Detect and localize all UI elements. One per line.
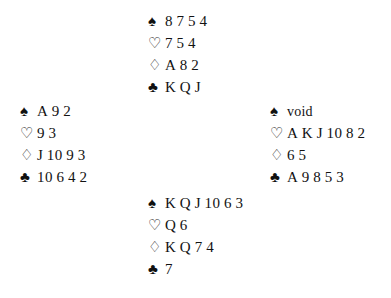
spades-suit-icon: ♠ — [148, 10, 165, 32]
card-rank: J — [317, 122, 323, 144]
suit-line-clubs: ♣KQJ — [148, 76, 208, 98]
card-rank: K — [302, 122, 313, 144]
card-rank: 9 — [52, 100, 60, 122]
suit-line-clubs: ♣7 — [148, 258, 244, 280]
card-rank: 8 — [165, 10, 173, 32]
card-ranks: 65 — [287, 144, 307, 166]
card-rank: 10 — [47, 144, 63, 166]
card-rank: Q — [180, 192, 191, 214]
hand-north: ♠8754♡754♢A82♣KQJ — [148, 10, 208, 98]
clubs-suit-icon: ♣ — [148, 76, 165, 98]
hearts-suit-icon: ♡ — [148, 32, 165, 54]
card-rank: 7 — [195, 236, 203, 258]
diamonds-suit-icon: ♢ — [148, 54, 165, 76]
card-rank: 2 — [63, 100, 71, 122]
card-rank: A — [287, 166, 298, 188]
suit-line-hearts: ♡Q6 — [148, 214, 244, 236]
card-rank: 5 — [177, 32, 185, 54]
hand-east: ♠void♡AKJ1082♢65♣A9853 — [270, 100, 366, 188]
hand-south: ♠KQJ1063♡Q6♢KQ74♣7 — [148, 192, 244, 280]
card-ranks: 10642 — [37, 166, 88, 188]
card-rank: 3 — [49, 122, 57, 144]
card-rank: Q — [165, 214, 176, 236]
card-ranks: void — [287, 101, 313, 123]
card-rank: 3 — [78, 144, 86, 166]
card-rank: 10 — [327, 122, 343, 144]
card-ranks: KQJ — [165, 76, 201, 98]
card-rank: 5 — [325, 166, 333, 188]
card-ranks: A82 — [165, 54, 199, 76]
card-rank: 8 — [180, 54, 188, 76]
card-ranks: 754 — [165, 32, 196, 54]
suit-line-diamonds: ♢A82 — [148, 54, 208, 76]
card-rank: 2 — [80, 166, 88, 188]
card-rank: 6 — [57, 166, 65, 188]
card-rank: 9 — [66, 144, 74, 166]
card-rank: A — [37, 100, 48, 122]
card-ranks: J1093 — [37, 144, 86, 166]
card-ranks: AKJ1082 — [287, 122, 366, 144]
card-ranks: A9853 — [287, 166, 344, 188]
card-rank: K — [165, 192, 176, 214]
suit-line-diamonds: ♢KQ74 — [148, 236, 244, 258]
hearts-suit-icon: ♡ — [270, 122, 287, 144]
bridge-deal-diagram: ♠8754♡754♢A82♣KQJ ♠A92♡93♢J1093♣10642 ♠v… — [0, 0, 391, 298]
card-ranks: Q6 — [165, 214, 188, 236]
card-rank: 8 — [346, 122, 354, 144]
card-rank: 7 — [165, 32, 173, 54]
card-ranks: 93 — [37, 122, 57, 144]
card-rank: 10 — [205, 192, 221, 214]
card-rank: 7 — [177, 10, 185, 32]
suit-line-hearts: ♡93 — [20, 122, 88, 144]
card-rank: 4 — [188, 32, 196, 54]
card-rank: 6 — [287, 144, 295, 166]
card-rank: 2 — [358, 122, 366, 144]
card-rank: 2 — [191, 54, 199, 76]
card-rank: K — [165, 76, 176, 98]
card-rank: J — [195, 76, 201, 98]
card-rank: 4 — [200, 10, 208, 32]
clubs-suit-icon: ♣ — [20, 166, 37, 188]
suit-line-spades: ♠A92 — [20, 100, 88, 122]
card-ranks: 7 — [165, 258, 173, 280]
suit-line-diamonds: ♢65 — [270, 144, 366, 166]
card-rank: 10 — [37, 166, 53, 188]
clubs-suit-icon: ♣ — [148, 258, 165, 280]
card-ranks: A92 — [37, 100, 71, 122]
hearts-suit-icon: ♡ — [20, 122, 37, 144]
card-rank: A — [287, 122, 298, 144]
card-rank: 7 — [165, 258, 173, 280]
card-rank: Q — [180, 236, 191, 258]
suit-line-diamonds: ♢J1093 — [20, 144, 88, 166]
card-rank: 3 — [336, 166, 344, 188]
suit-line-spades: ♠KQJ1063 — [148, 192, 244, 214]
card-rank: 6 — [224, 192, 232, 214]
hand-west: ♠A92♡93♢J1093♣10642 — [20, 100, 88, 188]
card-ranks: KQ74 — [165, 236, 214, 258]
suit-line-clubs: ♣10642 — [20, 166, 88, 188]
spades-suit-icon: ♠ — [270, 100, 287, 122]
card-ranks: 8754 — [165, 10, 208, 32]
card-rank: 4 — [206, 236, 214, 258]
card-rank: J — [37, 144, 43, 166]
card-ranks: KQJ1063 — [165, 192, 244, 214]
spades-suit-icon: ♠ — [20, 100, 37, 122]
card-rank: J — [195, 192, 201, 214]
card-rank: 5 — [188, 10, 196, 32]
suit-line-spades: ♠8754 — [148, 10, 208, 32]
card-rank: 4 — [68, 166, 76, 188]
card-rank: A — [165, 54, 176, 76]
diamonds-suit-icon: ♢ — [20, 144, 37, 166]
card-rank: K — [165, 236, 176, 258]
diamonds-suit-icon: ♢ — [270, 144, 287, 166]
spades-suit-icon: ♠ — [148, 192, 165, 214]
card-rank: Q — [180, 76, 191, 98]
hearts-suit-icon: ♡ — [148, 214, 165, 236]
clubs-suit-icon: ♣ — [270, 166, 287, 188]
card-rank: 3 — [236, 192, 244, 214]
suit-line-spades: ♠void — [270, 100, 366, 122]
diamonds-suit-icon: ♢ — [148, 236, 165, 258]
suit-line-hearts: ♡AKJ1082 — [270, 122, 366, 144]
suit-line-hearts: ♡754 — [148, 32, 208, 54]
card-rank: 5 — [299, 144, 307, 166]
